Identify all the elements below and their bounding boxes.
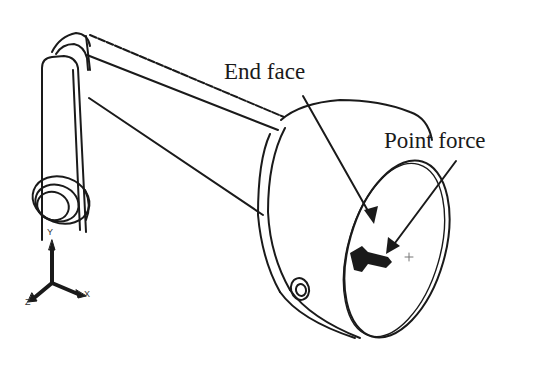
- axis-x-label: X: [84, 290, 90, 299]
- axis-y-label: Y: [47, 228, 53, 237]
- force-arrow-icon: [350, 246, 392, 272]
- assembly-diagram: [0, 0, 544, 368]
- coordinate-triad-icon: [28, 240, 86, 302]
- end-face: [325, 148, 468, 349]
- end-face-label: End face: [224, 60, 305, 83]
- leader-lines: [303, 96, 456, 247]
- crank-arm: [42, 33, 90, 240]
- point-force-label: Point force: [384, 129, 486, 152]
- axis-z-label: Z: [25, 298, 31, 307]
